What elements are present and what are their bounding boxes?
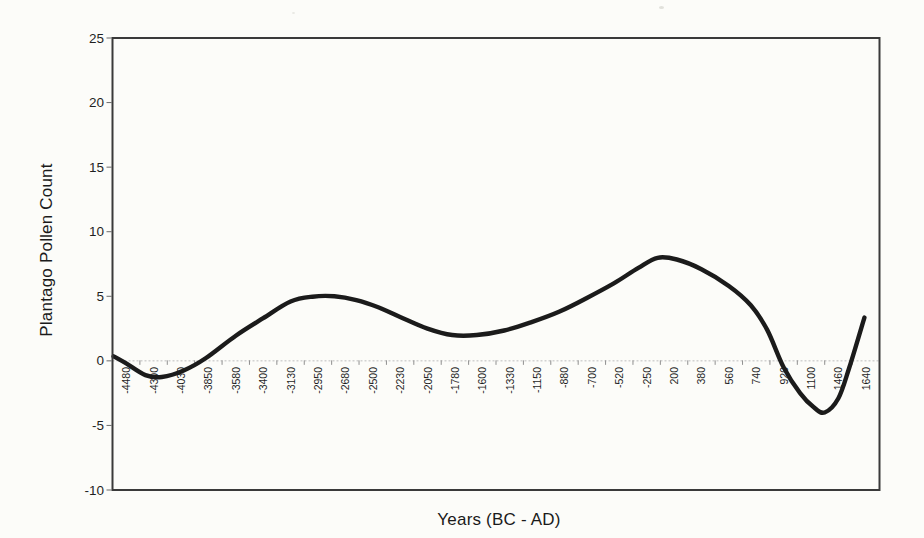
x-tick-label: -4300 bbox=[148, 367, 160, 394]
y-tick-label: 0 bbox=[96, 353, 104, 368]
y-tick-label: 10 bbox=[89, 224, 104, 239]
x-tick-label: -520 bbox=[613, 367, 625, 388]
x-tick-label: -1330 bbox=[504, 367, 516, 394]
x-tick-label: -3130 bbox=[285, 367, 297, 394]
pollen-curve bbox=[114, 257, 865, 413]
x-tick-label: -2230 bbox=[394, 367, 406, 394]
x-tick-label: -2050 bbox=[422, 367, 434, 394]
x-tick-label: -4480 bbox=[120, 367, 132, 394]
x-tick-label: -2680 bbox=[339, 367, 351, 394]
y-tick-label: 25 bbox=[89, 31, 104, 46]
x-axis-title: Years (BC - AD) bbox=[437, 510, 560, 530]
plot-border bbox=[113, 38, 880, 490]
x-tick-label: -1780 bbox=[449, 367, 461, 394]
x-tick-label: -1150 bbox=[531, 367, 543, 393]
x-tick-label: 740 bbox=[750, 367, 762, 385]
x-tick-label: -1600 bbox=[476, 367, 488, 394]
x-tick-label: -3580 bbox=[230, 367, 242, 394]
y-tick-label: 15 bbox=[89, 160, 104, 175]
x-tick-label: 560 bbox=[723, 367, 735, 385]
x-tick-label: -2500 bbox=[367, 367, 379, 394]
pollen-chart-figure: Plantago Pollen Count 2520151050-5-10-44… bbox=[0, 0, 924, 538]
pollen-line-chart: 2520151050-5-10-4480-4300-4030-3850-3580… bbox=[0, 0, 924, 538]
x-tick-label: -3400 bbox=[257, 367, 269, 394]
x-tick-label: -2950 bbox=[312, 367, 324, 394]
x-tick-label: -700 bbox=[586, 367, 598, 388]
x-tick-label: 380 bbox=[695, 367, 707, 385]
y-tick-label: 5 bbox=[96, 289, 104, 304]
x-tick-label: -250 bbox=[641, 367, 653, 388]
x-tick-label: 1640 bbox=[860, 367, 872, 391]
y-tick-label: 20 bbox=[89, 95, 104, 110]
y-tick-label: -5 bbox=[92, 418, 104, 433]
x-tick-label: -3850 bbox=[202, 367, 214, 394]
x-tick-label: 200 bbox=[668, 367, 680, 385]
x-tick-label: -880 bbox=[558, 367, 570, 388]
x-tick-label: 1100 bbox=[805, 367, 817, 390]
y-tick-label: -10 bbox=[84, 483, 104, 498]
